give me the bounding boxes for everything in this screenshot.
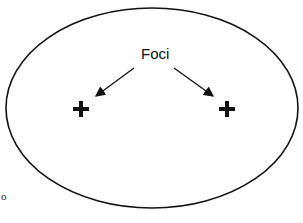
arrow-right: [174, 68, 213, 96]
ellipse-outline: [6, 8, 298, 208]
stray-char: o: [1, 190, 7, 202]
right-focus-plus-icon: [219, 101, 235, 117]
foci-label: Foci: [141, 45, 169, 62]
left-focus-plus-icon: [73, 101, 89, 117]
ellipse-diagram: [0, 0, 303, 223]
arrow-left: [96, 68, 134, 96]
